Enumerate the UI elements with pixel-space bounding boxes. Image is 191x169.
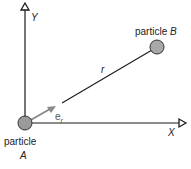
y-axis-arrowhead-icon bbox=[21, 3, 29, 10]
particle-a-circle-icon bbox=[18, 116, 32, 130]
y-axis bbox=[21, 3, 29, 123]
x-axis-arrowhead-icon bbox=[179, 119, 186, 127]
unit-vector-subscript: r bbox=[61, 117, 63, 124]
position-vector-line bbox=[62, 50, 152, 103]
x-axis bbox=[25, 119, 186, 127]
unit-vector-label: er bbox=[55, 112, 63, 122]
unit-vector-arrow bbox=[29, 106, 56, 121]
position-vector-diagram: Y X particle B particle A r er bbox=[0, 0, 191, 169]
x-axis-label: X bbox=[168, 128, 175, 138]
particle-a-prefix: particle bbox=[4, 137, 36, 147]
unit-vector-base: e bbox=[55, 111, 61, 122]
y-axis-label: Y bbox=[31, 13, 38, 23]
particle-b-label: particle B bbox=[135, 27, 177, 37]
particle-b-prefix: particle bbox=[135, 26, 167, 37]
particle-b-circle-icon bbox=[150, 40, 164, 54]
particle-b-name: B bbox=[170, 26, 177, 37]
vector-r-label: r bbox=[101, 65, 104, 75]
particle-a-name: A bbox=[20, 151, 27, 161]
